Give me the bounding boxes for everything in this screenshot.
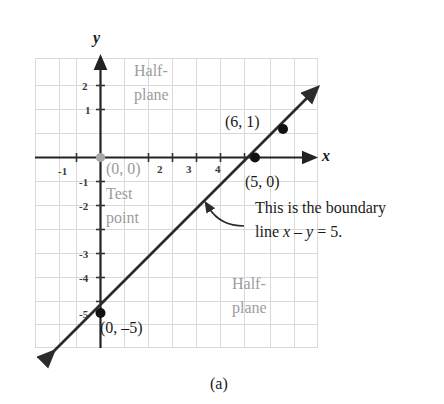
y-tick-neg1: -1 [79, 177, 88, 188]
point-6-1-label: (6, 1) [225, 114, 260, 130]
y-tick-neg3: -3 [79, 249, 88, 260]
test-point-label: (0, 0) [106, 161, 141, 177]
x-tick-3: 3 [186, 164, 192, 175]
point-5-0-label: (5, 0) [245, 174, 280, 190]
test-point-caption-line1: Test [106, 186, 132, 202]
callout-arrow [209, 208, 244, 226]
point-0-neg5-marker [96, 308, 106, 318]
axis-tick-marks [77, 86, 245, 302]
upper-half-plane-line1: Half- [134, 63, 168, 79]
boundary-note-line1: This is the boundary [255, 200, 386, 216]
point-5-0-marker [250, 153, 260, 163]
y-axis-label: y [93, 30, 100, 46]
y-tick-neg4: -4 [79, 273, 88, 284]
y-tick-neg2: -2 [79, 201, 88, 212]
boundary-note-suffix: = 5. [313, 223, 342, 240]
x-tick-4: 4 [215, 164, 221, 175]
x-axis-label: x [322, 148, 330, 164]
lower-half-plane-line2: plane [232, 300, 267, 316]
y-tick-2: 2 [82, 81, 88, 92]
x-tick-neg1: -1 [58, 166, 67, 177]
test-point-marker [96, 153, 105, 162]
boundary-note-line2: line x – y = 5. [255, 224, 342, 240]
upper-half-plane-line2: plane [134, 87, 169, 103]
y-tick-neg5: -5 [79, 309, 88, 320]
half-plane-graph-figure: y x 2 1 -1 -2 -3 -4 -5 -1 2 3 4 (0, 0) (… [0, 0, 444, 404]
point-0-neg5-label: (0, –5) [100, 320, 143, 336]
x-tick-2: 2 [157, 164, 163, 175]
boundary-note-minus: – [290, 223, 306, 240]
boundary-note-prefix: line [255, 223, 283, 240]
figure-caption: (a) [210, 376, 228, 392]
y-tick-1: 1 [85, 105, 91, 116]
point-6-1-marker [278, 124, 288, 134]
lower-half-plane-line1: Half- [232, 276, 266, 292]
test-point-caption-line2: point [106, 210, 139, 226]
